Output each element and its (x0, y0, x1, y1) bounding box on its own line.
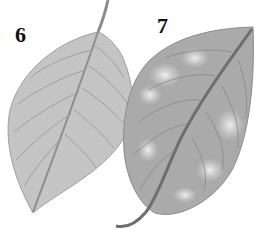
leaf-illustration: 6 7 (0, 0, 260, 241)
leaf-6 (8, 0, 133, 213)
leaf-6-label: 6 (15, 24, 26, 46)
leaf-7-label: 7 (157, 15, 168, 37)
leaf-7 (116, 27, 253, 226)
leaves-drawing (0, 0, 260, 241)
